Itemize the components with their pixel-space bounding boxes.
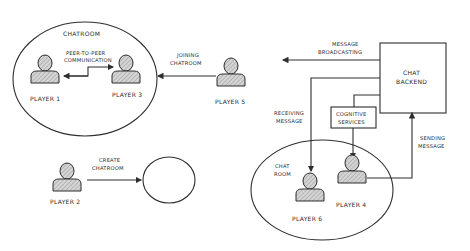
player-5-group: PLAYER 5 JOINING CHATROOM xyxy=(158,52,246,105)
player-5-icon xyxy=(217,58,245,86)
player-6-icon xyxy=(296,173,324,201)
player-1-icon xyxy=(31,55,59,83)
backend-label-2: BACKEND xyxy=(396,78,427,85)
chatroom-top: CHATROOM PLAYER 1 PLAYER 3 PEER-TO-PEER … xyxy=(13,22,157,136)
sending-arrow xyxy=(367,113,412,178)
player-3-icon xyxy=(112,55,140,83)
player-5-label: PLAYER 5 xyxy=(215,98,246,105)
player-2-icon xyxy=(53,163,81,191)
chatroom-bottom-label-2: ROOM xyxy=(274,171,291,177)
p2p-label-1: PEER-TO-PEER xyxy=(66,50,106,56)
joining-label-1: JOINING xyxy=(176,52,199,59)
broadcast-label-1: MESSAGE xyxy=(332,41,359,47)
cognitive-group: COGNITIVE SERVICES xyxy=(331,95,380,158)
p2p-label-2: COMMUNICATION xyxy=(64,57,112,63)
backend-label-1: CHAT xyxy=(403,69,420,76)
sending-group: SENDING MESSAGE xyxy=(367,113,445,178)
broadcast-label-2: BROADCASTING xyxy=(318,49,362,55)
joining-label-2: CHATROOM xyxy=(170,60,202,66)
new-chatroom-ellipse xyxy=(143,157,195,203)
receiving-label-1: RECEIVING xyxy=(274,110,304,116)
sending-label-2: MESSAGE xyxy=(418,143,445,149)
player-2-group: PLAYER 2 CREATE CHATROOM xyxy=(50,157,195,205)
cognitive-label-1: COGNITIVE xyxy=(336,111,366,117)
player-4-icon xyxy=(338,155,366,183)
create-label-2: CHATROOM xyxy=(92,165,124,171)
receiving-label-2: MESSAGE xyxy=(276,118,303,124)
create-label-1: CREATE xyxy=(99,157,120,163)
player-3-label: PLAYER 3 xyxy=(112,91,143,98)
chatroom-bottom: CHAT ROOM PLAYER 6 PLAYER 4 xyxy=(251,140,393,240)
chatroom-top-label: CHATROOM xyxy=(63,30,100,37)
player-1-label: PLAYER 1 xyxy=(30,95,61,102)
cognitive-label-2: SERVICES xyxy=(338,119,365,125)
chat-backend-group: CHAT BACKEND MESSAGE BROADCASTING xyxy=(283,41,446,113)
player-2-label: PLAYER 2 xyxy=(50,198,81,205)
p2p-arrow xyxy=(64,67,113,76)
architecture-diagram: CHATROOM PLAYER 1 PLAYER 3 PEER-TO-PEER … xyxy=(0,0,470,251)
player-6-label: PLAYER 6 xyxy=(292,215,323,222)
player-4-label: PLAYER 4 xyxy=(336,201,367,208)
sending-label-1: SENDING xyxy=(420,135,445,141)
cognitive-link xyxy=(354,95,380,107)
chatroom-bottom-label-1: CHAT xyxy=(275,163,290,169)
